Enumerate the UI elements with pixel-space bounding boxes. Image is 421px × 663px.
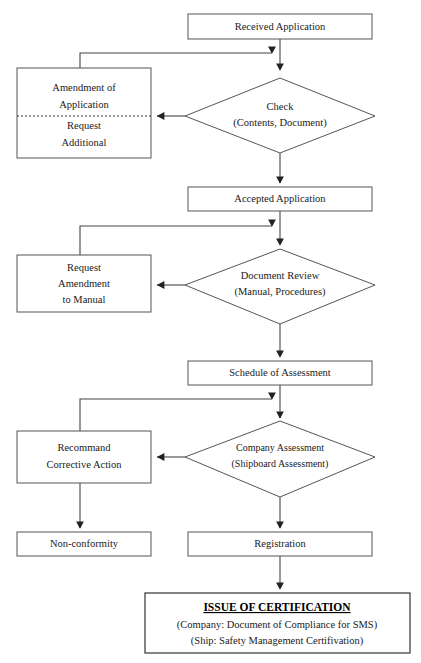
node-issue-of-certification[interactable]: ISSUE OF CERTIFICATION (Company: Documen… <box>145 593 410 653</box>
node-recommend-corrective-action[interactable]: Recommand Corrective Action <box>17 431 151 483</box>
node-check-line2: (Contents, Document) <box>233 117 327 129</box>
node-non-conformity[interactable]: Non-conformity <box>17 532 151 556</box>
node-request-amendment-to-manual[interactable]: Request Amendment to Manual <box>17 255 151 312</box>
node-amendment-of-application[interactable]: Amendment of Application Request Additio… <box>17 68 151 158</box>
node-registration-label: Registration <box>254 538 306 549</box>
node-request-amendment-line3: to Manual <box>63 294 106 305</box>
connector-request-amendment-feedback <box>80 226 272 255</box>
node-amendment-line2: Application <box>59 99 109 110</box>
node-document-review[interactable]: Document Review (Manual, Procedures) <box>185 249 375 324</box>
node-issue-certification-line1: (Company: Document of Compliance for SMS… <box>177 619 378 631</box>
node-check-line1: Check <box>267 101 295 112</box>
node-amendment-line1: Amendment of <box>52 82 116 93</box>
node-request-amendment-line1: Request <box>67 262 101 273</box>
node-accepted-application[interactable]: Accepted Application <box>188 187 372 211</box>
node-request-amendment-line2: Amendment <box>58 278 110 289</box>
node-issue-certification-title: ISSUE OF CERTIFICATION <box>203 601 351 613</box>
node-corrective-line1: Recommand <box>57 442 111 453</box>
node-document-review-line1: Document Review <box>241 270 320 281</box>
node-amendment-line4: Additional <box>62 137 107 148</box>
node-company-assessment[interactable]: Company Assessment (Shipboard Assessment… <box>185 421 375 497</box>
connector-amendment-feedback <box>80 53 272 68</box>
node-non-conformity-label: Non-conformity <box>50 538 119 549</box>
node-company-assessment-line1: Company Assessment <box>236 442 324 453</box>
node-received-application[interactable]: Received Application <box>188 14 372 39</box>
node-company-assessment-line2: (Shipboard Assessment) <box>232 458 329 470</box>
node-document-review-line2: (Manual, Procedures) <box>235 286 326 298</box>
node-check-decision[interactable]: Check (Contents, Document) <box>185 78 375 153</box>
flowchart-canvas: Received Application Amendment of Applic… <box>0 0 421 663</box>
flowchart-container: Received Application Amendment of Applic… <box>0 0 421 663</box>
node-issue-certification-line2: (Ship: Safety Management Certifivation) <box>191 635 364 647</box>
connector-corrective-feedback <box>80 399 272 431</box>
node-accepted-application-label: Accepted Application <box>234 193 326 204</box>
node-amendment-line3: Request <box>67 120 101 131</box>
node-registration[interactable]: Registration <box>188 532 372 556</box>
node-corrective-line2: Corrective Action <box>47 459 123 470</box>
node-received-application-label: Received Application <box>235 21 326 32</box>
node-schedule-of-assessment-label: Schedule of Assessment <box>229 367 331 378</box>
node-schedule-of-assessment[interactable]: Schedule of Assessment <box>188 361 372 385</box>
